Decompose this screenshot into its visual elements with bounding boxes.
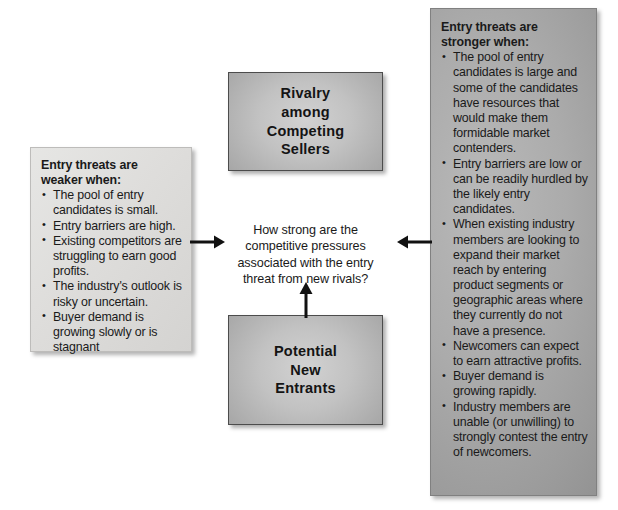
node-rivalry-among-competing-sellers: Rivalry among Competing Sellers: [228, 72, 383, 171]
right-panel-entry-threats-stronger: Entry threats are stronger when: The poo…: [430, 8, 597, 496]
list-item: Newcomers can expect to earn attractive …: [441, 339, 588, 369]
arrow-entrants-to-question: [296, 282, 316, 318]
right-panel-heading: Entry threats are stronger when:: [441, 20, 588, 50]
left-panel-entry-threats-weaker: Entry threats are weaker when: The pool …: [30, 147, 192, 352]
list-item: The pool of entry candidates is small.: [41, 188, 183, 218]
node-potential-new-entrants: Potential New Entrants: [228, 315, 383, 425]
list-item: Existing competitors are struggling to e…: [41, 234, 183, 280]
list-item: Buyer demand is growing slowly or is sta…: [41, 310, 183, 356]
list-item: Entry barriers are low or can be readily…: [441, 157, 588, 218]
list-item: The pool of entry candidates is large an…: [441, 50, 588, 156]
list-item: Industry members are unable (or unwillin…: [441, 400, 588, 461]
node-rivalry-label: Rivalry among Competing Sellers: [267, 84, 345, 159]
list-item: Buyer demand is growing rapidly.: [441, 369, 588, 399]
list-item: When existing industry members are looki…: [441, 217, 588, 339]
arrow-right-panel-to-question: [396, 232, 432, 252]
list-item: Entry barriers are high.: [41, 219, 183, 234]
left-panel-heading: Entry threats are weaker when:: [41, 158, 183, 188]
left-panel-bullet-list: The pool of entry candidates is small. E…: [41, 188, 183, 355]
center-question-text: How strong are the competitive pressures…: [213, 222, 398, 287]
list-item: The industry's outlook is risky or uncer…: [41, 279, 183, 309]
right-panel-bullet-list: The pool of entry candidates is large an…: [441, 50, 588, 460]
arrow-left-panel-to-question: [190, 232, 226, 252]
node-entrants-label: Potential New Entrants: [274, 342, 337, 399]
